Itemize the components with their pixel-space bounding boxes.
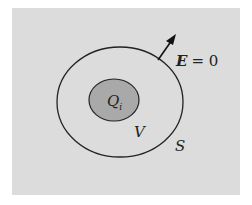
field-label: E= 0 <box>175 52 218 70</box>
surface-label: S <box>175 137 185 155</box>
gauss-diagram: Qi V S E= 0 <box>0 0 252 205</box>
diagram: Qi V S E= 0 <box>0 0 252 205</box>
